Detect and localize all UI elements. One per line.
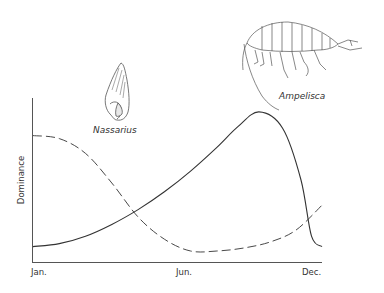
series-line-ampelisca [33,112,322,247]
snail-shell-icon [105,63,129,120]
x-tick-label-jun: Jun. [175,267,192,277]
series-line-nassarius [33,136,322,252]
dominance-chart: Dominance Jan. Jun. Dec. Nassarius Ampel… [0,0,384,293]
x-tick-label-dec: Dec. [302,267,321,277]
y-axis-label: Dominance [16,156,26,204]
x-tick-label-jan: Jan. [30,267,47,277]
ampelisca-label: Ampelisca [278,91,325,101]
nassarius-label: Nassarius [93,125,137,135]
